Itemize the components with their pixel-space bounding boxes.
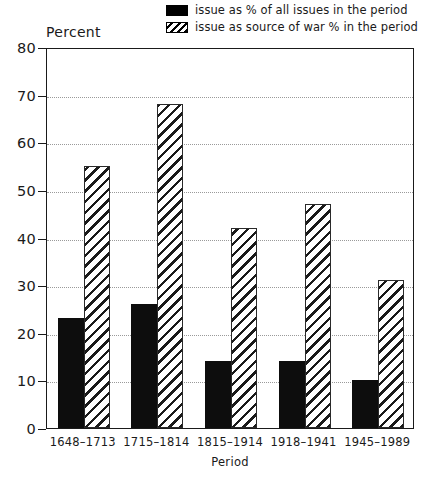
y-tick-label-70: 70 xyxy=(0,89,36,104)
y-tick-label-0: 0 xyxy=(0,422,36,437)
y-tick-label-50: 50 xyxy=(0,184,36,199)
solid-black-swatch xyxy=(166,5,188,16)
bar-issues-share-1715–1814 xyxy=(131,304,157,428)
y-tick-0 xyxy=(38,429,46,430)
x-tick-label-1918–1941: 1918–1941 xyxy=(267,435,341,449)
bar-issues-share-1815–1914 xyxy=(205,361,231,428)
legend-label-issues-share: issue as % of all issues in the period xyxy=(195,4,408,17)
y-tick-50 xyxy=(38,191,46,192)
bar-war-source-1715–1814 xyxy=(157,104,183,428)
x-tick-label-1815–1914: 1815–1914 xyxy=(193,435,267,449)
bar-issues-share-1918–1941 xyxy=(279,361,305,428)
legend-label-war-source: issue as source of war % in the period xyxy=(195,21,418,34)
y-tick-70 xyxy=(38,96,46,97)
bar-war-source-1648–1713 xyxy=(84,166,110,428)
bar-war-source-1945–1989 xyxy=(378,280,404,428)
gridline-60 xyxy=(47,144,413,145)
y-tick-label-60: 60 xyxy=(0,136,36,151)
y-tick-80 xyxy=(38,48,46,49)
y-tick-10 xyxy=(38,381,46,382)
bar-issues-share-1945–1989 xyxy=(352,380,378,428)
y-tick-label-40: 40 xyxy=(0,232,36,247)
y-tick-60 xyxy=(38,143,46,144)
x-tick-label-1648–1713: 1648–1713 xyxy=(46,435,120,449)
bar-war-source-1815–1914 xyxy=(231,228,257,428)
legend-item-issues-share: issue as % of all issues in the period xyxy=(166,3,416,18)
y-tick-20 xyxy=(38,334,46,335)
x-tick-label-1715–1814: 1715–1814 xyxy=(120,435,194,449)
y-tick-30 xyxy=(38,286,46,287)
y-tick-40 xyxy=(38,239,46,240)
y-tick-label-20: 20 xyxy=(0,327,36,342)
y-tick-label-10: 10 xyxy=(0,374,36,389)
plot-area xyxy=(46,48,414,429)
gridline-70 xyxy=(47,97,413,98)
y-axis-title: Percent xyxy=(46,24,101,40)
legend-item-war-source: issue as source of war % in the period xyxy=(166,20,416,35)
x-tick-label-1945–1989: 1945–1989 xyxy=(340,435,414,449)
bar-issues-share-1648–1713 xyxy=(58,318,84,428)
plot-inner xyxy=(47,49,413,428)
x-axis-title: Period xyxy=(46,455,414,469)
hatched-swatch xyxy=(166,22,188,33)
y-tick-label-80: 80 xyxy=(0,41,36,56)
chart-legend: issue as % of all issues in the period i… xyxy=(166,3,416,37)
bar-war-source-1918–1941 xyxy=(305,204,331,428)
y-tick-label-30: 30 xyxy=(0,279,36,294)
